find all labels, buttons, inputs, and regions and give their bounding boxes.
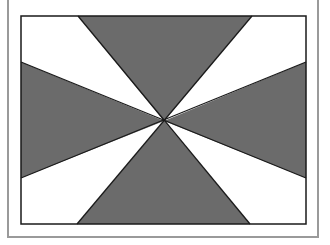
- wedge-diagram: [0, 0, 330, 245]
